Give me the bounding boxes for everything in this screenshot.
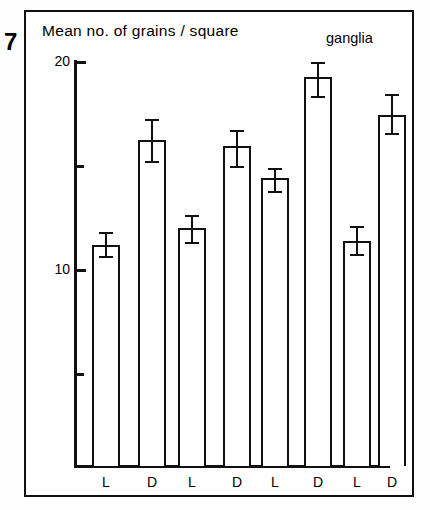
bar-group-2-L	[178, 228, 206, 466]
error-bar-cap-lower-7	[385, 133, 399, 135]
bar-group-3-L	[261, 178, 289, 466]
plot-area: 1020 LDLDLDLD	[0, 0, 430, 510]
error-bar-stem-6	[356, 226, 358, 254]
error-bar-stem-4	[274, 168, 276, 191]
x-label-group-3-D: D	[306, 474, 330, 490]
bar-group-1-L	[92, 245, 120, 466]
x-label-group-2-D: D	[225, 474, 249, 490]
x-label-group-1-L: L	[94, 474, 118, 490]
bar-group-2-D	[223, 146, 251, 466]
error-bar-cap-lower-3	[230, 166, 244, 168]
y-tick-label-20: 20	[30, 53, 70, 69]
bar-group-1-D	[138, 140, 166, 466]
error-bar-cap-upper-1	[145, 119, 159, 121]
error-bar-cap-upper-6	[350, 226, 364, 228]
y-minor-tick-5	[77, 373, 84, 376]
error-bar-cap-upper-3	[230, 130, 244, 132]
error-bar-stem-3	[236, 130, 238, 166]
y-tick-20	[77, 61, 86, 64]
x-label-group-2-L: L	[180, 474, 204, 490]
error-bar-stem-5	[317, 62, 319, 96]
error-bar-stem-7	[391, 94, 393, 132]
y-minor-tick-15	[77, 165, 84, 168]
bar-group-3-D	[304, 77, 332, 466]
x-label-group-1-D: D	[140, 474, 164, 490]
error-bar-cap-upper-4	[268, 168, 282, 170]
error-bar-cap-lower-4	[268, 191, 282, 193]
error-bar-cap-lower-1	[145, 161, 159, 163]
error-bar-cap-upper-2	[185, 215, 199, 217]
y-tick-10	[77, 269, 86, 272]
error-bar-cap-upper-5	[311, 62, 325, 64]
error-bar-cap-lower-2	[185, 242, 199, 244]
y-tick-label-10: 10	[30, 261, 70, 277]
x-label-group-4-L: L	[345, 474, 369, 490]
x-label-group-3-L: L	[263, 474, 287, 490]
bar-group-4-L	[343, 241, 371, 466]
figure-panel: 7 Mean no. of grains / square ganglia 10…	[0, 0, 430, 510]
error-bar-cap-upper-0	[99, 232, 113, 234]
error-bar-cap-upper-7	[385, 94, 399, 96]
error-bar-stem-0	[105, 232, 107, 257]
error-bar-stem-2	[191, 215, 193, 242]
error-bar-stem-1	[151, 119, 153, 161]
bar-group-4-D	[378, 115, 406, 466]
error-bar-cap-lower-5	[311, 96, 325, 98]
error-bar-cap-lower-6	[350, 254, 364, 256]
x-label-group-4-D: D	[380, 474, 404, 490]
y-axis-line	[74, 60, 77, 468]
error-bar-cap-lower-0	[99, 256, 113, 258]
